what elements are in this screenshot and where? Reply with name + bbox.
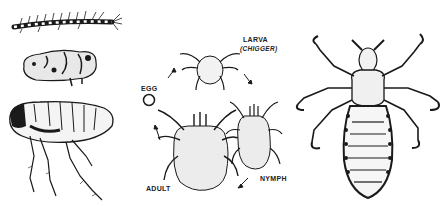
flea-pupa-illustration [0,44,140,94]
flea-adult-illustration [0,96,140,206]
larva-illustration [180,54,240,90]
flea-life-stages-panel [0,0,140,207]
label-nymph: NYMPH [260,175,287,182]
chigger-life-cycle-panel: EGG LARVA (CHIGGER) NYMPH ADULT [130,30,300,207]
adult-illustration [158,110,242,190]
label-larva: LARVA [243,36,268,43]
egg-illustration [144,95,155,106]
label-adult: ADULT [146,185,171,192]
nymph-illustration [226,102,282,169]
flea-larva-illustration [0,0,140,40]
louse-panel [290,30,444,207]
label-larva-note: (CHIGGER) [240,45,277,52]
louse-illustration [290,30,444,207]
label-egg: EGG [141,85,157,92]
